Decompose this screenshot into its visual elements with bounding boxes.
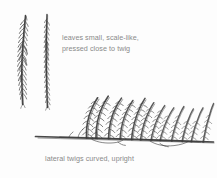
leaf-annotation: leaves small, scale-like, pressed close … [62,33,139,54]
illustration-canvas [0,0,217,178]
twig-caption: lateral twigs curved, upright [45,154,134,165]
leaf-annotation-line-2: pressed close to twig [62,44,139,55]
leaf-annotation-line-1: leaves small, scale-like, [62,33,139,44]
botanical-figure: leaves small, scale-like, pressed close … [0,0,217,178]
figure-background [0,0,217,178]
